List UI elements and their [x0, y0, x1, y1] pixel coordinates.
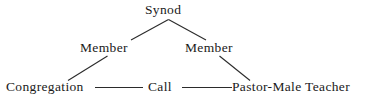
node-pastor: Pastor-Male Teacher — [232, 80, 350, 94]
node-synod: Synod — [145, 3, 181, 17]
edge-line-member-right-pastor — [220, 56, 251, 81]
edge-line-member-left-congregation — [68, 56, 108, 81]
edge-line-synod-member-right — [169, 20, 207, 41]
node-congregation: Congregation — [6, 80, 84, 94]
edge-line-synod-member-left — [131, 20, 169, 41]
diagram-canvas: Synod Member Member Congregation Call Pa… — [0, 0, 374, 104]
edge-label-call: Call — [148, 80, 172, 94]
edge-label-member-right: Member — [185, 41, 233, 55]
edge-label-member-left: Member — [80, 41, 128, 55]
